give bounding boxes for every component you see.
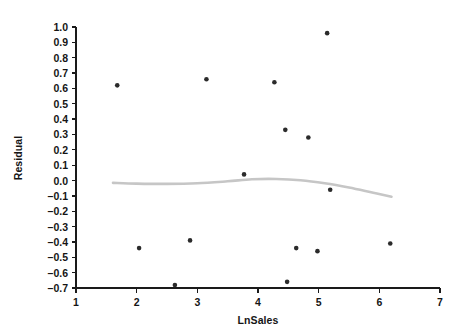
y-tick-label: 0.1	[53, 160, 68, 171]
y-tick-label: 0.7	[53, 68, 68, 79]
x-axis-title: LnSales	[238, 314, 279, 326]
x-tick-label: 4	[255, 297, 261, 308]
y-tick-label: –0.1	[48, 191, 68, 202]
x-tick-label: 5	[316, 297, 322, 308]
y-tick-label: 0.0	[53, 175, 68, 186]
residual-scatter-plot: 1.00.90.80.70.60.50.40.30.20.10.0–0.1–0.…	[0, 0, 464, 330]
plot-canvas	[0, 0, 464, 330]
x-tick-label: 2	[134, 297, 140, 308]
y-tick-label: 0.5	[53, 99, 68, 110]
x-tick-label: 3	[194, 297, 200, 308]
y-tick-label: –0.7	[48, 283, 68, 294]
y-tick-label: –0.2	[48, 206, 68, 217]
y-tick-label: –0.5	[48, 252, 68, 263]
y-tick-label: 1.0	[53, 22, 68, 33]
y-tick-label: 0.3	[53, 129, 68, 140]
y-tick-label: –0.3	[48, 221, 68, 232]
y-tick-label: 0.2	[53, 145, 68, 156]
y-tick-label: 0.4	[53, 114, 68, 125]
y-tick-label: 0.6	[53, 83, 68, 94]
axes	[72, 27, 441, 293]
y-tick-label: –0.4	[48, 237, 68, 248]
y-tick-label: –0.6	[48, 267, 68, 278]
smoothing-fit-line	[113, 179, 391, 197]
x-tick-label: 7	[437, 297, 443, 308]
x-tick-label: 1	[73, 297, 79, 308]
y-axis-title: Residual	[12, 135, 24, 180]
y-tick-label: 0.8	[53, 52, 68, 63]
y-tick-label: 0.9	[53, 37, 68, 48]
x-tick-label: 6	[376, 297, 382, 308]
data-points	[115, 31, 393, 287]
